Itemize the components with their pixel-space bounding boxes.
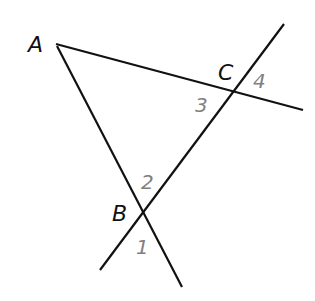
point-label-a: A (26, 32, 43, 57)
angle-label-3: 3 (195, 93, 208, 117)
angle-label-4: 4 (253, 69, 266, 93)
line-ab (57, 46, 182, 287)
angle-label-2: 2 (141, 170, 154, 194)
point-label-b: B (112, 201, 127, 226)
angle-label-1: 1 (136, 235, 149, 259)
triangle-diagram: A C B 1 2 3 4 (0, 0, 315, 301)
line-ac (56, 44, 303, 110)
line-bc (100, 24, 284, 270)
point-label-c: C (218, 60, 234, 85)
